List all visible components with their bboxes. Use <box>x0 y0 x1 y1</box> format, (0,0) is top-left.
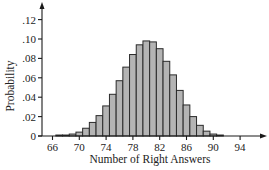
histogram-bar <box>83 128 90 136</box>
y-tick-label: .02 <box>22 111 36 123</box>
x-tick-label: 94 <box>235 141 247 153</box>
x-tick-label: 74 <box>101 141 113 153</box>
histogram-bar <box>190 117 197 136</box>
x-tick-label: 70 <box>74 141 86 153</box>
histogram-bar <box>203 131 210 136</box>
y-axis-title: Probability <box>4 60 17 111</box>
histogram-bar <box>123 67 130 136</box>
histogram-bar <box>150 42 157 136</box>
y-tick-label: .08 <box>22 52 36 64</box>
histogram-bar <box>176 90 183 136</box>
y-tick-label: .06 <box>22 72 36 84</box>
x-tick-label: 90 <box>208 141 220 153</box>
histogram-bar <box>143 41 150 136</box>
histogram-bar <box>116 81 123 136</box>
histogram-bar <box>76 132 83 136</box>
y-axis: 0.02.04.06.08.10.12 <box>22 2 44 142</box>
x-axis-arrow-icon <box>260 134 267 139</box>
x-tick-label: 78 <box>127 141 139 153</box>
y-tick-label: .04 <box>22 91 36 103</box>
probability-histogram: 0.02.04.06.08.10.12 6670747882869094 Pro… <box>0 0 269 170</box>
histogram-bar <box>103 106 110 136</box>
histogram-bar <box>183 105 190 136</box>
y-tick-label: .12 <box>22 14 36 26</box>
x-axis-title: Number of Right Answers <box>89 153 211 166</box>
histogram-bar <box>136 45 143 136</box>
y-tick-label: .10 <box>22 33 36 45</box>
histogram-bar <box>156 49 163 136</box>
histogram-bar <box>109 94 116 136</box>
histogram-bar <box>89 122 96 136</box>
x-tick-label: 66 <box>47 141 59 153</box>
x-tick-label: 86 <box>181 141 193 153</box>
y-axis-arrow-icon <box>40 2 45 9</box>
x-tick-label: 82 <box>154 141 165 153</box>
histogram-bar <box>96 116 103 136</box>
histogram-bar <box>197 125 204 136</box>
histogram-bar <box>163 61 170 136</box>
x-axis: 6670747882869094 <box>38 134 267 154</box>
histogram-bar <box>170 75 177 136</box>
y-tick-label: 0 <box>31 130 37 142</box>
histogram-bar <box>130 55 137 136</box>
histogram-bars <box>56 41 224 136</box>
